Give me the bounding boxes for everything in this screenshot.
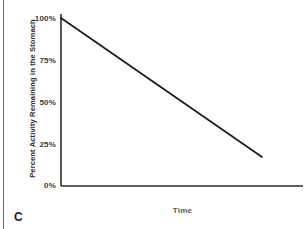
chart-plot-area: 100% 75% 50% 25% 0% Percent Activity Rem… — [0, 0, 308, 229]
panel-label: C — [14, 210, 23, 224]
y-axis-title: Percent Activity Remaining in the Stomac… — [28, 4, 37, 194]
line-chart-svg — [0, 0, 308, 229]
x-axis-title: Time — [61, 206, 304, 215]
figure-panel-c: 100% 75% 50% 25% 0% Percent Activity Rem… — [0, 0, 308, 229]
data-line-series-1 — [61, 18, 262, 157]
